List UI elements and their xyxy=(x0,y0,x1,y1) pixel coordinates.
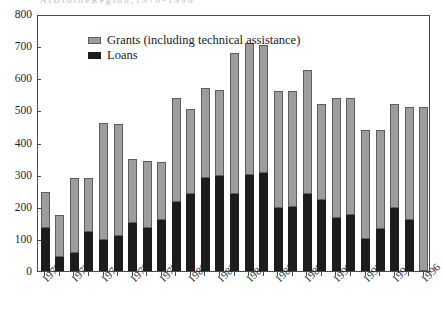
bar-segment-loans xyxy=(186,194,195,271)
bar-segment-loans xyxy=(172,202,181,271)
bar-segment-grants xyxy=(55,215,64,256)
bar-segment-grants xyxy=(172,98,181,202)
bar-1984 xyxy=(245,43,254,271)
bar-segment-loans xyxy=(201,178,210,271)
bar-segment-grants xyxy=(303,70,312,194)
chart-legend: Grants (including technical assistance) … xyxy=(88,33,300,63)
bar-1980 xyxy=(186,109,195,271)
bar-segment-loans xyxy=(274,208,283,271)
y-axis-tick-label: 500 xyxy=(0,105,32,117)
bar-segment-loans xyxy=(41,228,50,271)
bar-1986 xyxy=(274,91,283,271)
bar-segment-grants xyxy=(114,124,123,236)
bar-1995 xyxy=(405,107,414,271)
bar-segment-grants xyxy=(332,98,341,218)
bar-1996 xyxy=(419,107,428,271)
bar-segment-grants xyxy=(70,178,79,253)
bar-segment-grants xyxy=(157,162,166,220)
legend-label-loans: Loans xyxy=(107,49,138,62)
bar-1973 xyxy=(84,178,93,271)
bar-segment-loans xyxy=(215,176,224,271)
bar-1979 xyxy=(172,98,181,271)
bar-segment-grants xyxy=(405,107,414,219)
bar-1987 xyxy=(288,91,297,271)
bar-segment-loans xyxy=(390,208,399,271)
bar-segment-grants xyxy=(288,91,297,207)
y-axis-tick-label: 700 xyxy=(0,41,32,53)
y-axis-tick-label: 600 xyxy=(0,73,32,85)
y-axis-tick-label: 0 xyxy=(0,266,32,278)
y-axis-tick-mark xyxy=(37,208,41,209)
bar-segment-grants xyxy=(376,130,385,230)
bar-segment-grants xyxy=(346,98,355,215)
y-axis-tick-mark xyxy=(37,176,41,177)
bar-1974 xyxy=(99,123,108,271)
bar-segment-grants xyxy=(230,53,239,194)
bar-1977 xyxy=(143,161,152,271)
bar-1991 xyxy=(346,98,355,271)
bar-segment-loans xyxy=(128,223,137,271)
bar-1982 xyxy=(215,90,224,272)
bar-segment-grants xyxy=(99,123,108,240)
bar-1989 xyxy=(317,104,326,271)
bar-1988 xyxy=(303,70,312,271)
bar-segment-grants xyxy=(259,45,268,174)
bar-segment-grants xyxy=(317,104,326,200)
legend-item-loans: Loans xyxy=(88,48,300,63)
bar-1993 xyxy=(376,130,385,271)
bar-segment-loans xyxy=(230,194,239,271)
y-axis-tick-mark xyxy=(37,240,41,241)
bar-1985 xyxy=(259,45,268,271)
bar-segment-grants xyxy=(186,109,195,194)
bar-segment-grants xyxy=(128,159,137,223)
bar-segment-grants xyxy=(215,90,224,177)
bar-1976 xyxy=(128,159,137,271)
bar-1992 xyxy=(361,130,370,271)
y-axis-tick-mark xyxy=(37,111,41,112)
bar-1983 xyxy=(230,53,239,271)
bar-1994 xyxy=(390,104,399,271)
bar-segment-grants xyxy=(274,91,283,208)
bar-segment-grants xyxy=(361,130,370,239)
legend-swatch-loans-icon xyxy=(88,52,101,59)
bar-segment-grants xyxy=(143,161,152,227)
y-axis-tick-label: 200 xyxy=(0,202,32,214)
bar-segment-grants xyxy=(390,104,399,208)
y-axis-tick-label: 100 xyxy=(0,234,32,246)
legend-label-grants: Grants (including technical assistance) xyxy=(107,34,300,47)
bar-1990 xyxy=(332,98,341,271)
legend-swatch-grants-icon xyxy=(88,37,101,44)
plot-area: Grants (including technical assistance) … xyxy=(37,15,430,272)
y-axis-tick-label: 300 xyxy=(0,170,32,182)
bar-1972 xyxy=(70,178,79,271)
bar-1981 xyxy=(201,88,210,271)
bar-1970 xyxy=(41,192,50,271)
bar-segment-grants xyxy=(84,178,93,232)
legend-item-grants: Grants (including technical assistance) xyxy=(88,33,300,48)
y-axis-tick-mark xyxy=(37,47,41,48)
bar-segment-loans xyxy=(259,173,268,271)
bar-segment-loans xyxy=(157,220,166,271)
bar-segment-loans xyxy=(332,218,341,271)
y-axis-tick-mark xyxy=(37,144,41,145)
bar-1975 xyxy=(114,124,123,271)
bar-segment-grants xyxy=(41,192,50,227)
bar-segment-grants xyxy=(419,107,428,271)
bar-segment-loans xyxy=(317,200,326,271)
bar-1978 xyxy=(157,162,166,271)
bar-segment-grants xyxy=(201,88,210,178)
y-axis-tick-mark xyxy=(37,79,41,80)
y-axis-tick-label: 400 xyxy=(0,138,32,150)
bar-segment-loans xyxy=(288,207,297,271)
y-axis-tick-label: 800 xyxy=(0,9,32,21)
bar-segment-loans xyxy=(245,175,254,271)
bar-segment-loans xyxy=(303,194,312,271)
